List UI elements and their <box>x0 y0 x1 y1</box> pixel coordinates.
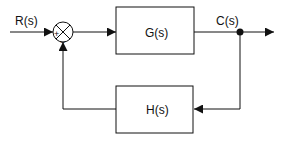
feedback-line-to-h <box>194 32 240 109</box>
input-label: R(s) <box>15 14 38 28</box>
feedback-line-to-junction <box>63 42 116 109</box>
block-diagram: R(s) + − G(s) C(s) H(s) <box>0 0 286 142</box>
forward-block-label: G(s) <box>145 26 168 40</box>
output-label: C(s) <box>216 14 239 28</box>
feedback-block-label: H(s) <box>146 103 169 117</box>
plus-sign: + <box>54 29 59 39</box>
